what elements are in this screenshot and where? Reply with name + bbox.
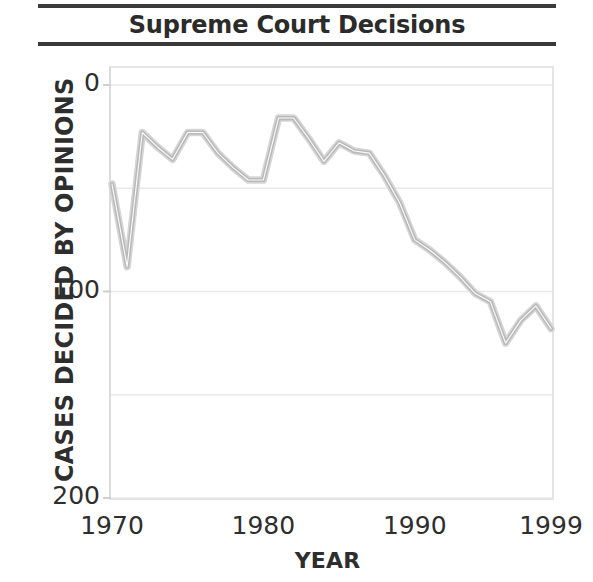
y-axis-tick-label: 200 (14, 481, 100, 510)
x-axis-tick-label: 1970 (52, 511, 172, 540)
plot-frame (110, 67, 553, 499)
x-axis-tick-label: 1999 (491, 511, 593, 540)
y-axis-title: CASES DECIDED BY OPINIONS (51, 82, 79, 482)
x-axis-tick-label: 1990 (355, 511, 475, 540)
chart-plot-area: 2001000 1970198019901999 CASES DECIDED B… (0, 0, 593, 582)
data-series-line (112, 118, 551, 343)
x-axis-tick-label: 1980 (203, 511, 323, 540)
x-axis-title: YEAR (100, 548, 555, 573)
